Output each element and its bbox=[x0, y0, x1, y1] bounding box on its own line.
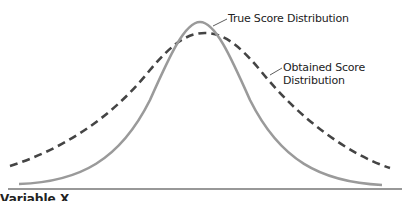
true-score-curve bbox=[19, 22, 382, 185]
true-score-leader bbox=[213, 19, 227, 26]
true-score-label: True Score Distribution bbox=[228, 12, 349, 25]
obtained-score-label-line1: Obtained Score bbox=[283, 61, 365, 74]
obtained-score-label-line2: Distribution bbox=[283, 74, 345, 87]
obtained-score-leader bbox=[270, 68, 282, 75]
distribution-diagram bbox=[0, 0, 407, 201]
obtained-score-curve bbox=[10, 33, 390, 168]
axis-label-partial: Variable X bbox=[0, 192, 69, 201]
